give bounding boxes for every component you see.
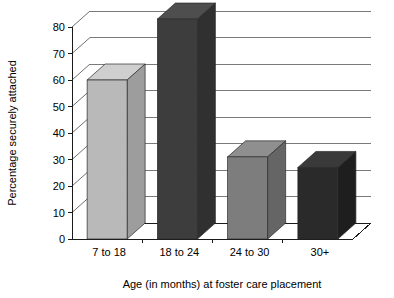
bar-chart-figure: 01020304050607080 7 to 1818 to 2424 to 3… [0,0,394,298]
grid-depth-line [72,64,90,80]
grid-depth-line [72,11,90,27]
y-tick-label: 20 [53,180,65,192]
x-category-label: 24 to 30 [230,246,270,258]
bar-side-face [197,3,215,239]
x-category-label: 30+ [311,246,330,258]
bar-4 [298,151,356,239]
y-axis-ticks: 01020304050607080 [53,21,72,245]
floor-right-edge [353,223,371,239]
bar-front-face [228,157,268,239]
bar-front-face [87,80,127,239]
y-tick-label: 40 [53,127,65,139]
bar-side-face [338,151,356,239]
y-tick-label: 50 [53,101,65,113]
bar-1 [87,64,145,239]
y-tick-label: 30 [53,154,65,166]
bar-front-face [298,167,338,239]
bar-2 [157,3,215,239]
y-tick-label: 10 [53,207,65,219]
y-tick-label: 70 [53,48,65,60]
chart-canvas: 01020304050607080 7 to 1818 to 2424 to 3… [0,0,394,298]
y-tick-label: 60 [53,74,65,86]
grid-depth-line [72,38,90,54]
y-tick-label: 80 [53,21,65,33]
bar-side-face [127,64,145,239]
bars-layer [87,3,356,239]
bar-side-face [268,141,286,239]
bar-3 [228,141,286,239]
x-axis-category-labels: 7 to 1818 to 2424 to 3030+ [92,239,329,258]
x-axis-title: Age (in months) at foster care placement [123,278,322,290]
y-axis-title: Percentage securely attached [6,60,18,206]
x-category-label: 7 to 18 [92,246,126,258]
y-tick-label: 0 [59,233,65,245]
x-category-label: 18 to 24 [159,246,199,258]
bar-front-face [157,19,197,239]
